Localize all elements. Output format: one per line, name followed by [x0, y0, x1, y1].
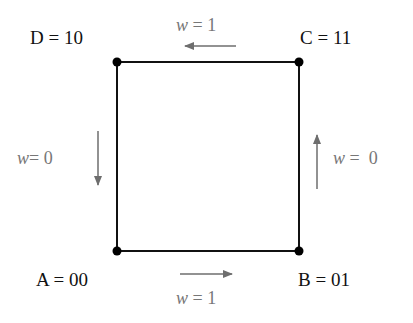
square-edges — [117, 62, 299, 251]
transition-label-c-d: w = 1 — [176, 15, 216, 35]
node-label-b: B = 01 — [298, 269, 350, 290]
node-label-c: C = 11 — [300, 27, 351, 48]
node-dot-a — [113, 247, 122, 256]
transition-label-b-c: w = 0 — [333, 148, 378, 168]
node-label-d: D = 10 — [30, 27, 83, 48]
state-diagram: D = 10 C = 11 A = 00 B = 01 w = 1 w= 0 w… — [0, 0, 413, 323]
transition-label-d-a: w= 0 — [17, 148, 53, 168]
transition-label-a-b: w = 1 — [176, 288, 216, 308]
node-dot-b — [295, 247, 304, 256]
node-dot-d — [113, 58, 122, 67]
node-dot-c — [295, 58, 304, 67]
node-label-a: A = 00 — [36, 269, 88, 290]
